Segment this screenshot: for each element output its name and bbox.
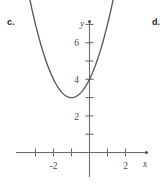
y-axis-arrow-icon	[88, 20, 91, 23]
y-tick-label-4: 4	[74, 75, 79, 85]
y-axis-label: y	[79, 19, 85, 29]
x-axis-arrow-icon	[145, 151, 148, 154]
multiple-choice-graph-figure: c. d. -2 2	[0, 0, 168, 190]
y-tick-label-6: 6	[74, 38, 79, 48]
y-tick-label-2: 2	[74, 112, 79, 122]
coordinate-plane-plot: -2 2 2 4 6 x y	[0, 0, 168, 190]
parabola	[29, 0, 114, 98]
x-tick-label-neg2: -2	[50, 161, 58, 171]
x-tick-label-2: 2	[123, 161, 128, 171]
x-axis-label: x	[142, 159, 148, 169]
